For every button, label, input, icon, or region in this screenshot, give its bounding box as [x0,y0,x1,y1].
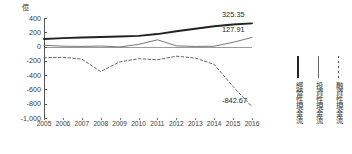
series-value-label: 127.91 [222,26,245,34]
legend-label: 融資性現金流 [334,81,342,123]
series-value-label: -842.67 [222,97,247,105]
series-line [44,23,252,39]
legend-label: 投資性現金流 [314,81,322,123]
chart-legend: 經營性現金流投資性現金流融資性現金流 [288,56,350,148]
legend-item[interactable]: 融資性現金流 [328,56,348,148]
series-line [44,37,252,46]
legend-item[interactable]: 經營性現金流 [288,56,308,148]
legend-swatch [338,56,339,78]
legend-swatch [318,56,319,78]
legend-label: 經營性現金流 [294,81,302,123]
legend-item[interactable]: 投資性現金流 [308,56,328,148]
legend-swatch [297,56,299,78]
series-line [44,56,252,107]
chart-container: 億 4002000-200-400-600-800-1,000 20052006… [0,0,352,154]
series-value-label: 325.35 [222,11,245,19]
